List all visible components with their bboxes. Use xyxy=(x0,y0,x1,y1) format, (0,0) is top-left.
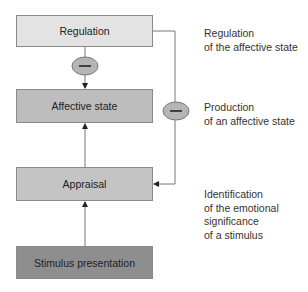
description-regulation: Regulation of the affective state xyxy=(204,27,298,54)
description-affective-state: Production of an affective state xyxy=(204,101,295,128)
description-line: significance xyxy=(204,215,279,229)
description-line: Regulation xyxy=(204,27,298,41)
description-appraisal: Identification of the emotional signific… xyxy=(204,188,279,242)
box-label: Appraisal xyxy=(63,178,107,190)
box-label: Regulation xyxy=(59,25,109,37)
description-line: of the affective state xyxy=(204,41,298,55)
box-stimulus-presentation: Stimulus presentation xyxy=(16,246,153,279)
description-line: of the emotional xyxy=(204,202,279,216)
inhibitor-left-minus-icon xyxy=(72,57,98,75)
inhibitor-right-minus-icon xyxy=(163,102,189,120)
box-affective-state: Affective state xyxy=(16,89,153,123)
description-line: of an affective state xyxy=(204,115,295,129)
box-label: Affective state xyxy=(52,100,118,112)
box-appraisal: Appraisal xyxy=(16,167,153,201)
box-label: Stimulus presentation xyxy=(34,257,135,269)
description-line: Production xyxy=(204,101,295,115)
box-regulation: Regulation xyxy=(16,15,153,47)
description-line: Identification xyxy=(204,188,279,202)
description-line: of a stimulus xyxy=(204,229,279,243)
